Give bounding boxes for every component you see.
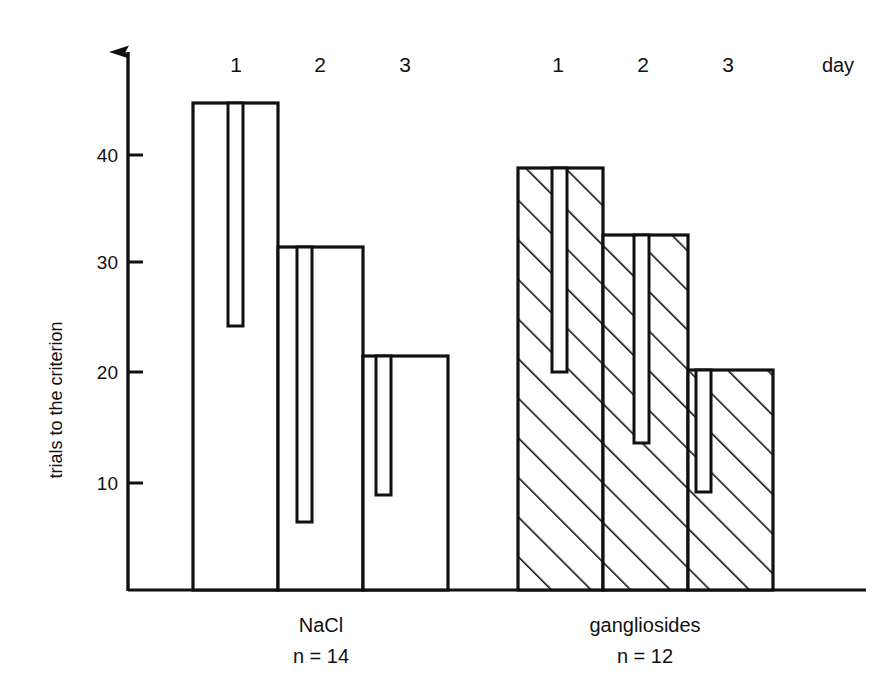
y-tick-label-40: 40 <box>97 145 118 166</box>
chart-background <box>0 0 886 699</box>
y-axis-title: trials to the criterion <box>46 321 66 478</box>
bar-rect <box>278 247 363 590</box>
figure-container: 40 30 20 10 trials to the criterion <box>0 0 886 699</box>
day-label-nacl-1: 1 <box>230 53 242 76</box>
bar-gangliosides-day3 <box>688 370 773 590</box>
x-axis-title: day <box>822 54 854 76</box>
bar-nacl-day3 <box>363 356 448 590</box>
day-label-nacl-3: 3 <box>399 53 411 76</box>
day-label-gangliosides-3: 3 <box>722 53 734 76</box>
day-label-gangliosides-1: 1 <box>552 53 564 76</box>
day-label-gangliosides-2: 2 <box>637 53 649 76</box>
y-tick-label-30: 30 <box>97 252 118 273</box>
day-label-nacl-2: 2 <box>314 53 326 76</box>
error-bar-nacl-day1 <box>228 103 243 326</box>
bar-nacl-day1 <box>193 103 278 590</box>
bar-gangliosides-day1 <box>518 168 603 590</box>
group-caption-nacl-n: n = 14 <box>293 645 349 667</box>
error-bar-gangliosides-day3 <box>696 370 711 492</box>
y-tick-label-20: 20 <box>97 362 118 383</box>
group-caption-nacl-name: NaCl <box>299 614 343 636</box>
bar-chart: 40 30 20 10 trials to the criterion <box>0 0 886 699</box>
group-caption-gangliosides-name: gangliosides <box>589 614 700 636</box>
group-caption-gangliosides-n: n = 12 <box>617 645 673 667</box>
error-bar-nacl-day3 <box>376 356 391 495</box>
error-bar-gangliosides-day1 <box>552 168 567 372</box>
bar-gangliosides-day2 <box>603 235 688 590</box>
y-tick-label-10: 10 <box>97 473 118 494</box>
bar-nacl-day2 <box>278 247 363 590</box>
error-bar-nacl-day2 <box>297 247 312 522</box>
error-bar-gangliosides-day2 <box>634 235 649 443</box>
